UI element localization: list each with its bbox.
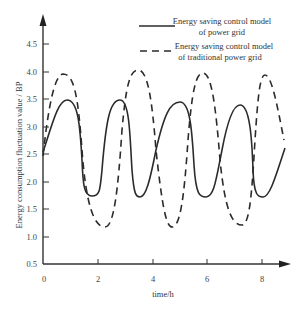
y-tick-label: 1.5: [26, 204, 37, 214]
x-tick-label: 2: [96, 274, 100, 284]
y-tick-label: 1.0: [26, 232, 37, 242]
y-tick-label: 3.5: [26, 94, 37, 104]
x-tick-label: 6: [205, 274, 209, 284]
series-dashed-line: [43, 70, 284, 227]
legend-solid-label-line1: Energy saving control model: [173, 16, 272, 26]
x-axis-title: time/h: [152, 289, 174, 299]
y-tick-label: 3.0: [26, 122, 37, 132]
x-ticks: [98, 259, 262, 264]
y-tick-label: 0.5: [26, 259, 37, 269]
x-tick-label: 4: [151, 274, 156, 284]
y-tick-labels: 4.5 4.0 3.5 3.0 2.5 2.0 1.5 1.0 0.5: [26, 39, 37, 269]
x-tick-label: 0: [42, 274, 46, 284]
y-axis-arrow-icon: [40, 14, 47, 26]
x-tick-label: 8: [260, 274, 264, 284]
legend-solid-label-line2: of power grid: [199, 27, 246, 37]
line-chart: 4.5 4.0 3.5 3.0 2.5 2.0 1.5 1.0 0.5 0 2 …: [0, 0, 306, 310]
y-tick-label: 4.5: [26, 39, 37, 49]
x-axis-arrow-icon: [279, 261, 291, 268]
y-tick-label: 2.0: [26, 177, 37, 187]
y-tick-label: 4.0: [26, 67, 37, 77]
y-axis-title: Energy consumption fluctuation value / B…: [14, 81, 24, 228]
legend-dashed-label-line1: Energy saving control model: [175, 41, 274, 51]
legend: Energy saving control model of power gri…: [139, 16, 274, 62]
legend-dashed-label-line2: of traditional power grid: [178, 52, 262, 62]
y-tick-label: 2.5: [26, 149, 37, 159]
x-tick-labels: 0 2 4 6 8: [42, 274, 264, 284]
